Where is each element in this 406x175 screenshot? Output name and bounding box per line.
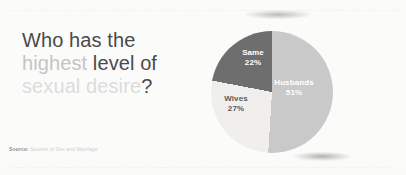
- source-text: Secrets of Sex and Marriage: [29, 146, 98, 152]
- pie-slice-label-husbands: Husbands 51%: [263, 78, 325, 97]
- pie-slice-name-wives: Wives: [224, 94, 248, 103]
- scan-smudge-bottom: [294, 152, 350, 161]
- infographic-slide: — –– —– — ––– —— – —––— –— ––—– —– ——–– …: [0, 0, 406, 175]
- headline-line-3: sexual desire?: [22, 75, 187, 98]
- source-credit: Source: Secrets of Sex and Marriage: [9, 146, 98, 153]
- scan-bleedthrough-bottom: –—– —— ––— —– —––— ––—– ——– –—–– —–— –– …: [0, 161, 406, 175]
- headline-emphasis-highest: highest: [22, 52, 87, 74]
- source-label: Source:: [9, 146, 29, 152]
- pie-slice-name-husbands: Husbands: [274, 78, 313, 87]
- headline-faded-sexual-desire: sexual desire: [22, 75, 141, 97]
- headline-text-who-has-the: Who has the: [22, 29, 135, 51]
- headline-line-2: highest level of: [22, 52, 187, 75]
- pie-slice-value-wives: 27%: [209, 104, 263, 114]
- headline-question-mark: ?: [141, 75, 152, 97]
- headline-line-1: Who has the: [22, 29, 187, 52]
- page-title: Who has the highest level of sexual desi…: [22, 29, 187, 98]
- scan-bleedthrough-top: — –– —– — ––– —— – —––— –— ––—– —– ——–– …: [0, 4, 406, 18]
- pie-slice-label-wives: Wives 27%: [209, 94, 263, 113]
- pie-slice-value-same: 22%: [228, 58, 278, 68]
- headline-text-level-of: level of: [87, 52, 157, 74]
- scan-smudge-top: [246, 10, 310, 19]
- pie-chart: Husbands 51% Wives 27% Same 22%: [211, 31, 333, 153]
- pie-slice-value-husbands: 51%: [263, 88, 325, 98]
- pie-slice-label-same: Same 22%: [228, 48, 278, 67]
- pie-slice-name-same: Same: [242, 48, 264, 57]
